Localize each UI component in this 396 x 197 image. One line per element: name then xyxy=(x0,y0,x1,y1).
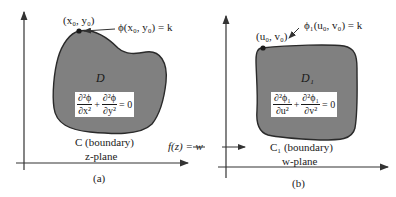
region-label-d1: D₁ xyxy=(301,72,314,84)
region-d-shape xyxy=(53,30,166,133)
plane-label-w: w-plane xyxy=(282,156,317,167)
point-equation-a: ϕ(x₀, y₀) = k xyxy=(118,22,173,33)
mapping-label: f(z) = w xyxy=(168,141,203,152)
laplace-a-plus: + xyxy=(94,100,100,110)
point-label-b: (u₀, v₀) xyxy=(256,31,288,42)
laplace-b-term1-den: ∂u² xyxy=(276,105,289,116)
region-label-d: D xyxy=(96,72,105,84)
caption-a: (a) xyxy=(93,173,105,184)
laplace-b-term2-num: ∂²ϕ₁ xyxy=(301,93,320,105)
laplace-equation-a: ∂²ϕ∂x² + ∂²ϕ∂y² = 0 xyxy=(75,92,134,117)
laplace-a-rhs: = 0 xyxy=(119,100,132,110)
laplace-a-term1-den: ∂x² xyxy=(78,105,91,116)
leader-arrow-a xyxy=(84,29,115,31)
boundary-label-c: C (boundary) xyxy=(75,137,134,148)
caption-b: (b) xyxy=(292,178,305,189)
boundary-label-c1: C₁ (boundary) xyxy=(270,142,333,153)
leader-arrow-b xyxy=(289,28,299,38)
laplace-b-rhs: = 0 xyxy=(322,100,335,110)
laplace-equation-b: ∂²ϕ₁∂u² + ∂²ϕ₁∂v² = 0 xyxy=(271,92,337,117)
point-label-a: (x₀, y₀) xyxy=(63,15,95,26)
laplace-a-term1-num: ∂²ϕ xyxy=(77,93,92,105)
point-equation-b: ϕ₁(u₀, v₀) = k xyxy=(304,20,362,31)
laplace-b-term2-den: ∂v² xyxy=(304,105,317,116)
laplace-a-term2-num: ∂²ϕ xyxy=(102,93,117,105)
laplace-a-term2-den: ∂y² xyxy=(103,105,116,116)
point-u0-v0 xyxy=(260,45,265,50)
laplace-b-plus: + xyxy=(294,100,300,110)
plane-label-z: z-plane xyxy=(85,151,117,162)
point-x0-y0 xyxy=(76,28,81,33)
laplace-b-term1-num: ∂²ϕ₁ xyxy=(273,93,292,105)
